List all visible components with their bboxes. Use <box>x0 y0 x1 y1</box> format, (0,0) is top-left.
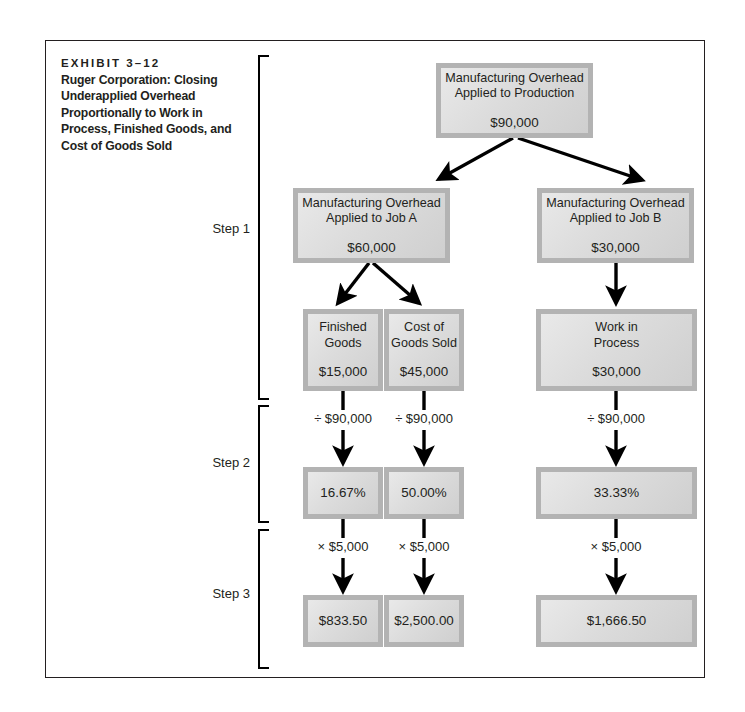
node-work-in-process: Work in Process $30,000 <box>536 309 697 391</box>
step-label-2: Step 2 <box>180 455 250 470</box>
node-title: Manufacturing Overhead Applied to Job A <box>302 196 441 227</box>
operator-multiply-work-in-process: × $5,000 <box>556 539 676 554</box>
node-body: Manufacturing Overhead Applied to Produc… <box>441 68 588 133</box>
node-amount: $15,000 <box>319 364 367 380</box>
node-amount: $90,000 <box>490 115 538 131</box>
node-amount: $60,000 <box>347 240 395 256</box>
node-body: Manufacturing Overhead Applied to Job B … <box>542 193 689 258</box>
node-amount: $1,666.50 <box>587 613 647 629</box>
step-label-1: Step 1 <box>180 221 250 236</box>
exhibit-title-text: Ruger Corporation: Closing Underapplied … <box>61 72 246 154</box>
operator-multiply-cost-of-goods-sold: × $5,000 <box>364 539 484 554</box>
node-title: Manufacturing Overhead Applied to Job B <box>546 196 685 227</box>
node-percentage-cost-of-goods-sold: 50.00% <box>384 467 464 519</box>
node-body: Manufacturing Overhead Applied to Job A … <box>298 193 445 258</box>
node-allocation-cost-of-goods-sold: $2,500.00 <box>384 595 464 647</box>
node-amount: 50.00% <box>401 485 446 501</box>
operator-divide-work-in-process: ÷ $90,000 <box>556 411 676 426</box>
node-amount: $2,500.00 <box>394 613 454 629</box>
operator-divide-cost-of-goods-sold: ÷ $90,000 <box>364 411 484 426</box>
exhibit-number-label: EXHIBIT 3–12 <box>61 55 246 71</box>
node-title: Manufacturing Overhead Applied to Produc… <box>445 71 584 102</box>
bracket-step-2 <box>258 405 269 523</box>
node-overhead-applied-to-job-a: Manufacturing Overhead Applied to Job A … <box>293 188 450 263</box>
node-amount: 16.67% <box>320 485 365 501</box>
node-body: $833.50 <box>308 600 378 642</box>
step-label-3: Step 3 <box>180 586 250 601</box>
node-allocation-finished-goods: $833.50 <box>303 595 383 647</box>
node-amount: $45,000 <box>400 364 448 380</box>
node-amount: $30,000 <box>592 364 640 380</box>
node-title: Finished Goods <box>319 320 367 351</box>
node-percentage-finished-goods: 16.67% <box>303 467 383 519</box>
node-body: 33.33% <box>541 472 692 514</box>
exhibit-caption-block: EXHIBIT 3–12 Ruger Corporation: Closing … <box>61 55 246 154</box>
node-percentage-work-in-process: 33.33% <box>536 467 697 519</box>
node-amount: $30,000 <box>591 240 639 256</box>
node-title: Cost of Goods Sold <box>391 320 457 351</box>
node-finished-goods: Finished Goods $15,000 <box>303 309 383 391</box>
node-body: Work in Process $30,000 <box>541 314 692 386</box>
node-overhead-applied-to-production: Manufacturing Overhead Applied to Produc… <box>436 63 593 138</box>
bracket-step-1 <box>258 55 269 400</box>
node-body: Finished Goods $15,000 <box>308 314 378 386</box>
node-body: $1,666.50 <box>541 600 692 642</box>
bracket-step-3 <box>258 529 269 669</box>
node-body: 16.67% <box>308 472 378 514</box>
node-cost-of-goods-sold: Cost of Goods Sold $45,000 <box>384 309 464 391</box>
node-body: Cost of Goods Sold $45,000 <box>389 314 459 386</box>
node-body: 50.00% <box>389 472 459 514</box>
node-allocation-work-in-process: $1,666.50 <box>536 595 697 647</box>
node-overhead-applied-to-job-b: Manufacturing Overhead Applied to Job B … <box>537 188 694 263</box>
node-amount: 33.33% <box>594 485 639 501</box>
node-amount: $833.50 <box>319 613 367 629</box>
node-body: $2,500.00 <box>389 600 459 642</box>
exhibit-frame: EXHIBIT 3–12 Ruger Corporation: Closing … <box>45 40 705 678</box>
node-title: Work in Process <box>594 320 640 351</box>
